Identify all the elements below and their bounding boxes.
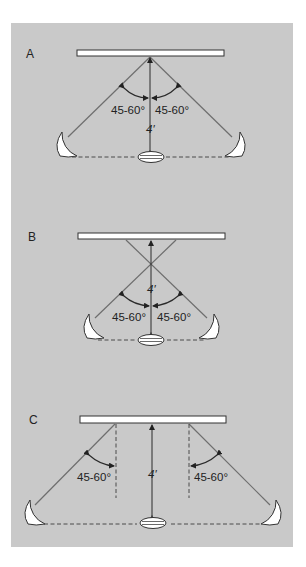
angle-label-left-b: 45-60° bbox=[112, 311, 146, 323]
distance-label-c: 4′ bbox=[148, 468, 157, 480]
background-bar-a bbox=[77, 50, 224, 56]
panel-letter-a: A bbox=[26, 47, 34, 61]
distance-label-b: 4′ bbox=[147, 283, 156, 295]
lighting-diagram: A 45-60° 45-60° 4′ B bbox=[0, 0, 306, 567]
angle-label-right-b: 45-60° bbox=[157, 311, 191, 323]
panel-letter-c: C bbox=[29, 413, 38, 427]
subject-b bbox=[138, 335, 164, 346]
angle-label-left-a: 45-60° bbox=[111, 104, 145, 116]
background-bar-c bbox=[80, 416, 226, 423]
angle-label-left-c: 45-60° bbox=[77, 471, 111, 483]
angle-label-right-c: 45-60° bbox=[194, 471, 228, 483]
distance-label-a: 4′ bbox=[146, 123, 155, 135]
panel-letter-b: B bbox=[28, 230, 36, 244]
background-bar-b bbox=[78, 233, 225, 239]
subject-a bbox=[138, 152, 164, 163]
angle-label-right-a: 45-60° bbox=[155, 104, 189, 116]
subject-c bbox=[140, 518, 166, 529]
